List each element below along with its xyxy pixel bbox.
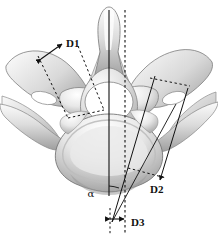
label-d3: D3: [131, 216, 145, 228]
vertebra-diagram-svg: D1 D2 D3 α: [0, 0, 218, 238]
left-anterior-tubercle: [0, 104, 68, 150]
right-anterior-tubercle: [152, 102, 218, 152]
label-d2: D2: [150, 183, 164, 195]
label-alpha: α: [88, 188, 95, 199]
vertebra-figure: D1 D2 D3 α: [0, 0, 218, 238]
label-d1: D1: [66, 37, 79, 49]
